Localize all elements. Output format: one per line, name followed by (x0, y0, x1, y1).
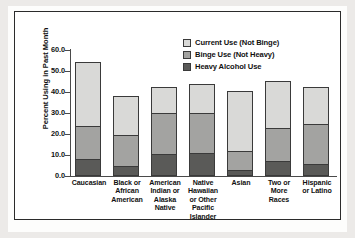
bar-segment-binge-use[interactable] (227, 151, 253, 170)
y-axis-tick (65, 92, 70, 93)
bar-segment-current-use[interactable] (189, 84, 215, 113)
bar-segment-current-use[interactable] (303, 87, 329, 124)
x-axis-line (70, 176, 337, 177)
bar-group[interactable] (114, 50, 140, 176)
legend-item[interactable]: Binge Use (Not Heavy) (183, 49, 279, 60)
x-axis-tick-label-line: or Latino (292, 187, 342, 195)
y-axis-tick (65, 176, 70, 177)
y-axis-tick (65, 113, 70, 114)
bar-segment-binge-use[interactable] (189, 113, 215, 153)
y-axis-tick-label: 30.0 (19, 108, 65, 117)
bar-segment-binge-use[interactable] (151, 113, 177, 154)
legend-swatch-icon (183, 63, 191, 71)
x-axis-tick-label-line: Pacific (178, 204, 228, 212)
legend-item-label: Heavy Alcohol Use (195, 62, 261, 71)
y-axis-tick-label: 50.0 (19, 66, 65, 75)
y-axis-tick-label: 10.0 (19, 150, 65, 159)
y-axis-tick (65, 71, 70, 72)
bar-segment-binge-use[interactable] (75, 126, 101, 159)
y-axis-tick-labels: 60.050.040.030.020.010.00.0 (15, 12, 65, 238)
x-axis-tick-label-line: Hawaiian (178, 187, 228, 195)
bar-segment-current-use[interactable] (227, 91, 253, 151)
y-axis-tick-label: 0.0 (19, 171, 65, 180)
bar-segment-current-use[interactable] (113, 96, 139, 136)
bar-segment-current-use[interactable] (151, 87, 177, 113)
bar-segment-heavy-alcohol-use[interactable] (265, 161, 291, 176)
legend-item[interactable]: Heavy Alcohol Use (183, 61, 279, 72)
x-axis-tick-label-line: Races (254, 196, 304, 204)
y-axis-tick-label: 20.0 (19, 129, 65, 138)
legend-swatch-icon (183, 39, 191, 47)
y-axis-tick (65, 50, 70, 51)
bar-segment-binge-use[interactable] (113, 135, 139, 165)
bar-group[interactable] (152, 50, 178, 176)
bar-group[interactable] (304, 50, 330, 176)
x-axis-tick-label-line: Hispanic (292, 179, 342, 187)
x-axis-tick-label: Hispanicor Latino (292, 179, 342, 196)
legend-item[interactable]: Current Use (Not Binge) (183, 37, 279, 48)
x-axis-tick-label-line: Islander (178, 213, 228, 221)
bar-group[interactable] (76, 50, 102, 176)
bar-segment-heavy-alcohol-use[interactable] (113, 166, 139, 176)
bar-segment-heavy-alcohol-use[interactable] (75, 159, 101, 176)
legend-item-label: Current Use (Not Binge) (195, 38, 279, 47)
legend-swatch-icon (183, 51, 191, 59)
bar-segment-current-use[interactable] (265, 81, 291, 128)
legend-item-label: Binge Use (Not Heavy) (195, 50, 274, 59)
bar-segment-binge-use[interactable] (265, 128, 291, 161)
chart-frame: Percent Using in Past Month 60.050.040.0… (14, 11, 341, 220)
bar-segment-heavy-alcohol-use[interactable] (189, 153, 215, 176)
bar-segment-current-use[interactable] (75, 62, 101, 126)
y-axis-tick (65, 155, 70, 156)
bar-segment-heavy-alcohol-use[interactable] (303, 164, 329, 176)
chart-legend: Current Use (Not Binge)Binge Use (Not He… (183, 37, 279, 73)
y-axis-tick-label: 40.0 (19, 87, 65, 96)
y-axis-tick (65, 134, 70, 135)
figure: Percent Using in Past Month 60.050.040.0… (0, 0, 355, 238)
x-axis-tick-label-line: or Other (178, 196, 228, 204)
bar-segment-binge-use[interactable] (303, 124, 329, 164)
y-axis-tick-label: 60.0 (19, 45, 65, 54)
bar-segment-heavy-alcohol-use[interactable] (227, 170, 253, 176)
bar-segment-heavy-alcohol-use[interactable] (151, 154, 177, 176)
